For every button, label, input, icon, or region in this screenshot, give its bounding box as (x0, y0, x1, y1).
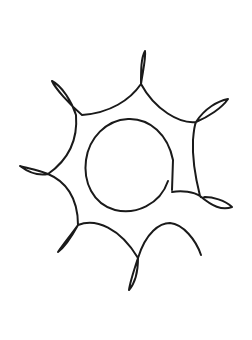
sun-outline (20, 51, 232, 290)
sun-rays-outline (20, 51, 232, 290)
drawing-canvas (0, 0, 252, 340)
sun-drawing (0, 0, 252, 340)
sun-core-circle (85, 119, 173, 211)
